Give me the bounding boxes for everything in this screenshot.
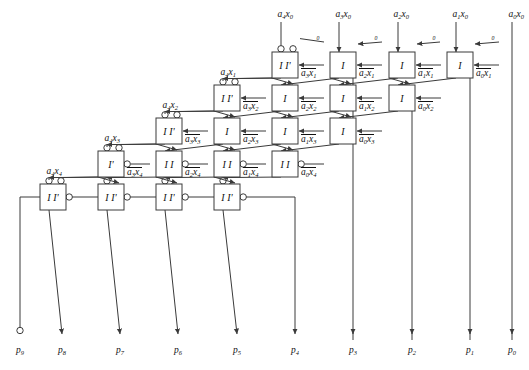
output-label-0: p9 <box>16 345 24 356</box>
cell-r3c1[interactable]: I I <box>156 151 182 177</box>
cell-label: I I <box>279 159 290 170</box>
cell-diag-bubble <box>174 112 180 118</box>
side-input-label: a3x3 <box>185 134 200 145</box>
cell-label: I <box>399 93 404 104</box>
carry-wire <box>330 111 351 117</box>
side-input-label: a0x2 <box>418 101 433 112</box>
cell-diag-bubble <box>116 145 122 151</box>
cell-r0c2[interactable]: I <box>389 52 415 78</box>
bottom-output-wire-1 <box>107 210 120 334</box>
cell-r0c1[interactable]: I <box>330 52 356 78</box>
zero-input-label-0: 0 <box>317 31 320 41</box>
figure-canvas: I I'IIII I'IIII I'IIII'I II II II I'I I'… <box>0 0 529 370</box>
cell-label: I <box>282 126 287 137</box>
carry-wire <box>272 78 293 84</box>
cell-label: I I' <box>220 192 233 203</box>
side-input-label: a1x1 <box>418 68 433 79</box>
zero-input-label-1: 0 <box>375 31 378 41</box>
cell-r2c1[interactable]: I <box>214 118 240 144</box>
left-input-label-1: a4x2 <box>163 100 178 111</box>
carry-wire-left <box>61 177 98 178</box>
output-label-9: p0 <box>508 345 516 356</box>
top-input-label-4: a0x0 <box>509 9 524 20</box>
top-input-label-3: a1x0 <box>453 9 468 20</box>
cell-label: I I <box>221 159 232 170</box>
side-input-label: a3x4 <box>127 167 142 178</box>
left-input-label-2: a4x3 <box>105 133 120 144</box>
carry-wire-left <box>177 111 214 112</box>
bottom-output-wire-3 <box>223 210 237 334</box>
top-input-label-0: a4x0 <box>278 9 293 20</box>
cell-out-bubble <box>66 194 72 200</box>
cell-label: I <box>399 60 404 71</box>
left-input-label-3: a4x4 <box>47 166 62 177</box>
output-label-1: p8 <box>58 345 66 356</box>
side-input-label: a1x2 <box>359 101 374 112</box>
cell-label: I I' <box>278 60 291 71</box>
cell-r2c3[interactable]: I <box>330 118 356 144</box>
cell-r1c3[interactable]: I <box>389 85 415 111</box>
output-label-7: p2 <box>408 345 416 356</box>
cell-diag-bubble <box>290 46 296 52</box>
side-input-label: a2x1 <box>359 68 374 79</box>
cell-r1c2[interactable]: I <box>330 85 356 111</box>
side-input-label: a2x4 <box>185 167 200 178</box>
wire-layer <box>17 22 512 340</box>
side-input-label: a0x3 <box>359 134 374 145</box>
cell-r3c0[interactable]: I' <box>98 151 124 177</box>
side-input-label: a0x1 <box>476 68 491 79</box>
cell-label: I <box>282 93 287 104</box>
carry-wire <box>214 144 235 150</box>
bottom-output-wire-2 <box>165 210 178 334</box>
cell-top-bubble <box>278 46 284 52</box>
cell-label: I <box>340 126 345 137</box>
zero-input-wire-2 <box>417 42 440 44</box>
cell-r2c0[interactable]: I I' <box>156 118 182 144</box>
cell-r4c3[interactable]: I I' <box>214 184 240 210</box>
carry-wire <box>272 111 293 117</box>
carry-wire <box>389 78 410 84</box>
cell-label: I I <box>163 159 174 170</box>
carry-wire <box>214 111 235 117</box>
side-input-label: a1x3 <box>301 134 316 145</box>
cell-r4c1[interactable]: I I' <box>98 184 124 210</box>
zero-input-wire-3 <box>475 42 499 44</box>
cell-r3c2[interactable]: I I <box>214 151 240 177</box>
cell-label: I I' <box>162 126 175 137</box>
output-label-2: p7 <box>116 345 124 356</box>
zero-input-label-2: 0 <box>433 31 436 41</box>
cell-out-bubble <box>182 194 188 200</box>
cell-label: I <box>457 60 462 71</box>
cell-r4c2[interactable]: I I' <box>156 184 182 210</box>
cell-r0c0[interactable]: I I' <box>272 52 298 78</box>
cell-r0c3[interactable]: I <box>447 52 473 78</box>
side-input-label: a3x2 <box>243 101 258 112</box>
cell-r1c1[interactable]: I <box>272 85 298 111</box>
side-input-label: a1x4 <box>243 167 258 178</box>
cell-r2c2[interactable]: I <box>272 118 298 144</box>
side-input-label: a2x2 <box>301 101 316 112</box>
cell-label: I <box>224 126 229 137</box>
cell-r4c0[interactable]: I I' <box>40 184 66 210</box>
cell-out-bubble <box>124 194 130 200</box>
cell-r1c0[interactable]: I I' <box>214 85 240 111</box>
side-input-label: a0x4 <box>301 167 316 178</box>
cell-label: I' <box>107 159 114 170</box>
side-input-label: a3x1 <box>301 68 316 79</box>
cell-diag-bubble <box>58 178 64 184</box>
cell-label: I I' <box>220 93 233 104</box>
output-label-4: p5 <box>233 345 241 356</box>
cell-label: I <box>340 60 345 71</box>
cell-r3c3[interactable]: I I <box>272 151 298 177</box>
top-input-label-2: a2x0 <box>394 9 409 20</box>
carry-wire <box>272 144 293 150</box>
carry-wire-left <box>235 78 272 79</box>
zero-input-wire-0 <box>300 39 324 42</box>
carry-wire <box>330 78 351 84</box>
cell-diag-bubble <box>232 79 238 85</box>
cell-label: I I' <box>46 192 59 203</box>
p9-terminal-circle <box>17 327 23 333</box>
output-label-3: p6 <box>174 345 182 356</box>
top-input-label-1: a3x0 <box>336 9 351 20</box>
zero-input-label-3: 0 <box>492 31 495 41</box>
